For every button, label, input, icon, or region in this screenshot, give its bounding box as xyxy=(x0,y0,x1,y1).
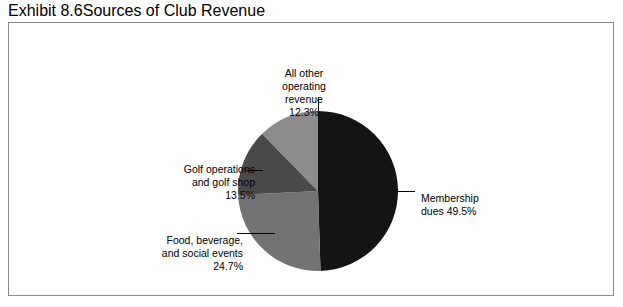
label-line: revenue xyxy=(285,93,323,105)
label-line: Golf operations xyxy=(184,163,255,175)
label-line: and social events xyxy=(162,247,243,259)
label-percent: 13.5% xyxy=(155,189,255,202)
label-line: Membership xyxy=(421,192,479,204)
pie-label-golf-operations: Golf operations and golf shop 13.5% xyxy=(155,163,255,202)
pie-label-membership-dues: Membership dues 49.5% xyxy=(421,192,531,218)
exhibit-header: Exhibit 8.6 Sources of Club Revenue xyxy=(8,2,265,20)
label-line: Food, beverage, xyxy=(167,234,243,246)
label-line: and golf shop xyxy=(192,176,255,188)
label-line: All other xyxy=(285,67,324,79)
pie-slices xyxy=(238,111,398,271)
label-line: dues 49.5% xyxy=(421,205,476,217)
chart-frame: All other operating revenue 12.3% Golf o… xyxy=(8,22,614,296)
pie-slice-membership-dues xyxy=(318,111,398,271)
label-percent: 12.3% xyxy=(261,106,347,119)
pie-chart xyxy=(9,23,615,297)
pie-label-all-other-revenue: All other operating revenue 12.3% xyxy=(261,67,347,119)
exhibit-number: Exhibit 8.6 xyxy=(8,2,83,20)
label-line: operating xyxy=(282,80,326,92)
label-percent: 24.7% xyxy=(127,260,243,273)
pie-label-food-beverage: Food, beverage, and social events 24.7% xyxy=(127,234,243,273)
exhibit-title: Sources of Club Revenue xyxy=(83,2,265,20)
pie-slice-food-beverage xyxy=(238,191,320,271)
